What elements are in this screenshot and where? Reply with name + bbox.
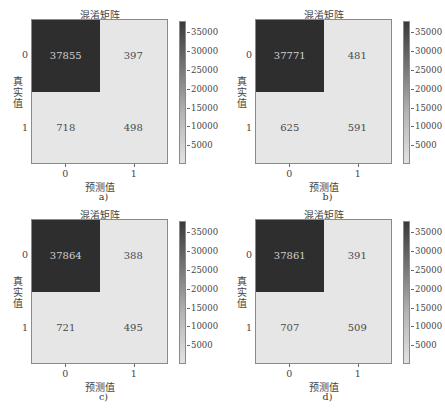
colorbar [179, 221, 186, 364]
colorbar-tick-30000: 30000 [415, 246, 442, 256]
cell-true0-pred1: 391 [324, 220, 392, 292]
matrix-plot-area: 37855 397 718 498 [31, 19, 168, 164]
x-tick-0: 0 [286, 168, 292, 179]
y-tick-0: 0 [22, 49, 28, 60]
colorbar [403, 21, 410, 164]
colorbar-tick-20000: 20000 [191, 284, 218, 294]
colorbar-tick-35000: 35000 [415, 27, 442, 37]
cell-true1-pred1: 498 [100, 92, 168, 164]
colorbar-tick-20000: 20000 [415, 284, 442, 294]
colorbar-tick-20000: 20000 [415, 84, 442, 94]
cell-true1-pred1: 509 [324, 292, 392, 364]
colorbar-tick-30000: 30000 [191, 246, 218, 256]
colorbar-tick-30000: 30000 [415, 46, 442, 56]
y-tick-0: 0 [246, 49, 252, 60]
colorbar-tick-10000: 10000 [415, 121, 442, 131]
x-tick-0: 0 [286, 368, 292, 379]
colorbar-tick-10000: 10000 [191, 321, 218, 331]
y-tick-1: 1 [22, 322, 28, 333]
colorbar-tick-25000: 25000 [191, 265, 218, 275]
colorbar-tick-25000: 25000 [191, 65, 218, 75]
cell-true0-pred0: 37861 [256, 220, 324, 292]
colorbar-tick-5000: 5000 [191, 140, 213, 150]
cell-true1-pred0: 721 [32, 292, 100, 364]
colorbar [403, 221, 410, 364]
colorbar-tick-15000: 15000 [415, 103, 442, 113]
matrix-plot-area: 37861 391 707 509 [255, 219, 392, 364]
cell-true0-pred0: 37771 [256, 20, 324, 92]
confusion-matrix-panel-d: 混淆矩阵 真实值 0 1 37861 391 707 509 0 1 预测值 d… [224, 200, 445, 405]
confusion-matrix-panel-a: 混淆矩阵 真实值 0 1 37855 397 718 498 0 1 预测值 a… [0, 0, 222, 205]
colorbar-tick-15000: 15000 [191, 103, 218, 113]
cell-true1-pred0: 718 [32, 92, 100, 164]
confusion-matrix-panel-b: 混淆矩阵 真实值 0 1 37771 481 625 591 0 1 预测值 b… [224, 0, 445, 205]
colorbar-tick-15000: 15000 [191, 303, 218, 313]
cell-true0-pred1: 388 [100, 220, 168, 292]
cell-true0-pred0: 37864 [32, 220, 100, 292]
colorbar-tick-35000: 35000 [415, 227, 442, 237]
cell-true0-pred1: 397 [100, 20, 168, 92]
colorbar-tick-5000: 5000 [191, 340, 213, 350]
colorbar-tick-20000: 20000 [191, 84, 218, 94]
x-tick-0: 0 [62, 168, 68, 179]
colorbar-tick-5000: 5000 [415, 140, 437, 150]
cell-true1-pred1: 495 [100, 292, 168, 364]
panel-label: c) [99, 391, 108, 402]
confusion-matrix-panel-c: 混淆矩阵 真实值 0 1 37864 388 721 495 0 1 预测值 c… [0, 200, 222, 405]
y-axis-label: 真实值 [233, 75, 248, 108]
y-tick-0: 0 [22, 249, 28, 260]
y-tick-1: 1 [246, 122, 252, 133]
panel-label: d) [323, 391, 333, 402]
cell-true0-pred1: 481 [324, 20, 392, 92]
cell-true0-pred0: 37855 [32, 20, 100, 92]
y-tick-1: 1 [22, 122, 28, 133]
y-tick-0: 0 [246, 249, 252, 260]
y-tick-1: 1 [246, 322, 252, 333]
matrix-plot-area: 37864 388 721 495 [31, 219, 168, 364]
colorbar-tick-10000: 10000 [415, 321, 442, 331]
cell-true1-pred0: 625 [256, 92, 324, 164]
matrix-plot-area: 37771 481 625 591 [255, 19, 392, 164]
colorbar-tick-35000: 35000 [191, 227, 218, 237]
colorbar [179, 21, 186, 164]
colorbar-tick-30000: 30000 [191, 46, 218, 56]
colorbar-tick-15000: 15000 [415, 303, 442, 313]
x-tick-1: 1 [355, 168, 361, 179]
x-tick-1: 1 [131, 368, 137, 379]
colorbar-tick-35000: 35000 [191, 27, 218, 37]
x-tick-1: 1 [131, 168, 137, 179]
colorbar-tick-5000: 5000 [415, 340, 437, 350]
y-axis-label: 真实值 [9, 275, 24, 308]
colorbar-tick-25000: 25000 [415, 65, 442, 75]
cell-true1-pred1: 591 [324, 92, 392, 164]
y-axis-label: 真实值 [9, 75, 24, 108]
cell-true1-pred0: 707 [256, 292, 324, 364]
colorbar-tick-10000: 10000 [191, 121, 218, 131]
colorbar-tick-25000: 25000 [415, 265, 442, 275]
x-tick-1: 1 [355, 368, 361, 379]
x-tick-0: 0 [62, 368, 68, 379]
y-axis-label: 真实值 [233, 275, 248, 308]
